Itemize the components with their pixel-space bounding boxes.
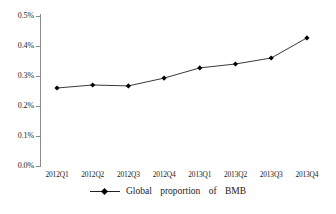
data-point-marker	[233, 61, 238, 66]
data-point-marker	[197, 65, 202, 70]
data-point-marker	[90, 82, 95, 87]
series-line	[57, 38, 307, 88]
x-axis-label: 2013Q4	[287, 170, 327, 179]
x-axis-label: 2012Q3	[108, 170, 148, 179]
y-axis-label: 0.1%	[0, 132, 34, 140]
y-axis-tick	[36, 46, 41, 47]
y-axis-tick	[36, 76, 41, 77]
y-axis-label: 0.0%	[0, 162, 34, 170]
y-axis-tick	[36, 136, 41, 137]
legend-marker-icon	[90, 187, 120, 197]
data-point-marker	[162, 76, 167, 81]
x-axis-label: 2012Q2	[73, 170, 113, 179]
y-axis-label: 0.4%	[0, 42, 34, 50]
legend-label: Global proportion of BMB	[126, 186, 246, 197]
data-point-marker	[54, 85, 59, 90]
x-axis-label: 2013Q1	[180, 170, 220, 179]
y-axis-label: 0.2%	[0, 102, 34, 110]
y-axis-tick	[36, 166, 41, 167]
y-axis-line	[40, 14, 41, 167]
x-axis-label: 2013Q3	[251, 170, 291, 179]
x-axis-label: 2012Q1	[37, 170, 77, 179]
data-point-marker	[304, 35, 309, 40]
line-chart: 0.0%0.1%0.2%0.3%0.4%0.5% 2012Q12012Q2201…	[0, 0, 336, 214]
y-axis-tick	[36, 106, 41, 107]
x-axis-label: 2012Q4	[144, 170, 184, 179]
chart-legend: Global proportion of BMB	[0, 186, 336, 197]
series-global-proportion-of-bmb	[0, 0, 336, 214]
y-axis-tick	[36, 16, 41, 17]
data-point-marker	[269, 55, 274, 60]
y-axis-label: 0.5%	[0, 12, 34, 20]
data-point-marker	[126, 83, 131, 88]
x-axis-label: 2013Q2	[216, 170, 256, 179]
y-axis-label: 0.3%	[0, 72, 34, 80]
